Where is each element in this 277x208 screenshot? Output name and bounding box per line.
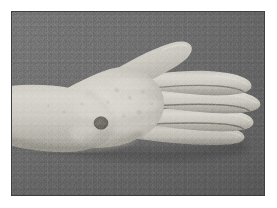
pigmented-lesion xyxy=(94,117,108,130)
clinical-photograph-plate xyxy=(11,11,265,196)
hand-illustration xyxy=(12,12,264,195)
figure-root: Grayscale clinical photograph of the bac… xyxy=(0,0,277,208)
